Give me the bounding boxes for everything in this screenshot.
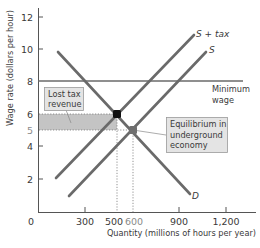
equilibrium-label-3: economy bbox=[170, 140, 208, 150]
y-tick-12: 12 bbox=[21, 12, 33, 23]
lost-tax-label-2: revenue bbox=[48, 99, 82, 109]
x-tick-0: 0 bbox=[28, 216, 34, 227]
x-tick-600: 600 bbox=[125, 216, 143, 227]
y-axis-title: Wage rate (dollars per hour) bbox=[5, 10, 15, 126]
x-tick-1200: 1,200 bbox=[212, 216, 239, 227]
chart-canvas: Lost tax revenue Equilibrium in undergro… bbox=[0, 0, 260, 248]
x-axis-title: Quantity (millions of hours per year) bbox=[107, 228, 256, 238]
supply-label: S bbox=[209, 45, 215, 55]
y-tick-4: 4 bbox=[27, 141, 33, 152]
equilibrium-label-1: Equilibrium in bbox=[170, 119, 226, 129]
x-tick-900: 900 bbox=[170, 216, 188, 227]
equilibrium-leader bbox=[133, 130, 166, 135]
minimum-wage-label-2: wage bbox=[212, 95, 234, 105]
supply-plus-tax-label: S + tax bbox=[196, 29, 230, 39]
lost-tax-label-1: Lost tax bbox=[48, 89, 81, 99]
minimum-wage-label-1: Minimum bbox=[212, 84, 250, 94]
tax-equilibrium-point bbox=[113, 110, 121, 118]
underground-equilibrium-point bbox=[129, 126, 137, 134]
equilibrium-label-2: underground bbox=[170, 130, 223, 140]
y-tick-8: 8 bbox=[27, 76, 33, 87]
y-tick-2: 2 bbox=[27, 174, 33, 185]
y-tick-6: 6 bbox=[27, 109, 33, 120]
x-tick-300: 300 bbox=[76, 216, 94, 227]
demand-label: D bbox=[192, 191, 199, 201]
x-tick-500: 500 bbox=[105, 216, 123, 227]
y-tick-5: 5 bbox=[27, 125, 33, 136]
y-tick-10: 10 bbox=[21, 44, 33, 55]
